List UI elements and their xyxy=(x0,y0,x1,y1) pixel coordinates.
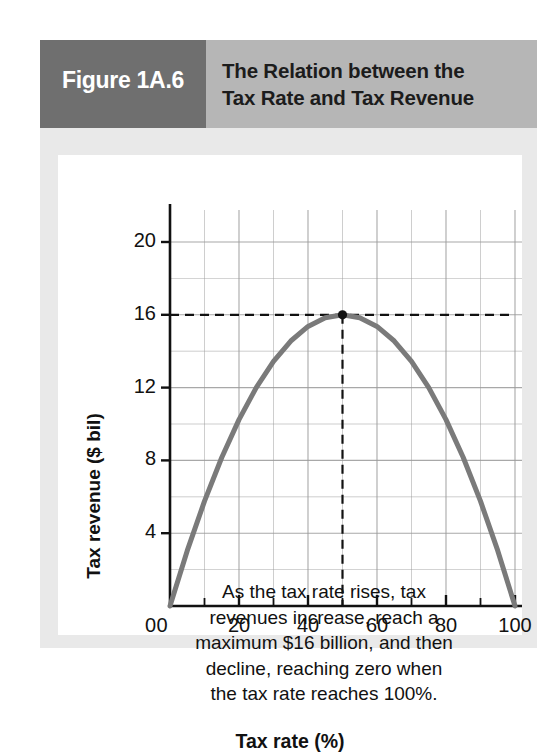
annotation-line-2: revenues increase, reach a xyxy=(158,605,490,631)
y-axis-tick-label-12: 12 xyxy=(112,375,156,398)
chart-annotation-text: As the tax rate rises, tax revenues incr… xyxy=(158,579,490,707)
axes xyxy=(170,204,522,606)
annotation-line-4: decline, reaching zero when xyxy=(158,656,490,682)
peak-point-marker xyxy=(338,310,347,319)
x-axis-title: Tax rate (%) xyxy=(58,730,522,753)
y-axis-tick-label-16: 16 xyxy=(112,302,156,325)
x-axis-tick-label-100: 100 xyxy=(485,614,545,637)
figure-title: The Relation between the Tax Rate and Ta… xyxy=(222,57,527,111)
figure-number-label: Figure 1A.6 xyxy=(40,67,206,94)
annotation-line-1: As the tax rate rises, tax xyxy=(158,579,490,605)
y-axis-tick-label-20: 20 xyxy=(112,229,156,252)
annotation-line-3: maximum $16 billion, and then xyxy=(158,630,490,656)
grid-major xyxy=(170,210,522,606)
annotation-line-5: the tax rate reaches 100%. xyxy=(158,681,490,707)
figure-container: Figure 1A.6 The Relation between the Tax… xyxy=(40,40,537,648)
y-axis-title: Tax revenue ($ bil) xyxy=(83,366,105,626)
figure-number-block: Figure 1A.6 xyxy=(40,40,206,128)
grid-minor xyxy=(170,210,522,606)
figure-title-line-1: The Relation between the xyxy=(222,57,527,84)
y-axis-tick-label-4: 4 xyxy=(112,520,156,543)
figure-title-line-2: Tax Rate and Tax Revenue xyxy=(222,84,527,111)
figure-header: Figure 1A.6 The Relation between the Tax… xyxy=(40,40,537,128)
y-axis-tick-label-8: 8 xyxy=(112,447,156,470)
chart-panel: 0 4 8 12 16 20 0 20 40 60 80 100 Tax rev… xyxy=(58,155,522,635)
